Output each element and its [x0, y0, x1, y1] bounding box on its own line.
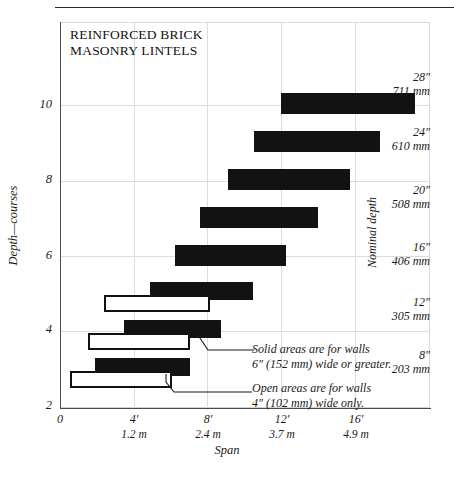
x-axis-line: [60, 408, 431, 409]
solid-note-leader-line: [198, 330, 258, 356]
y-tick-2: 2: [26, 398, 52, 413]
depth-label-20in-inches: 20": [350, 183, 430, 197]
x-tick-1-2m: 1.2 m: [110, 428, 158, 440]
open-note: Open areas are for walls 4" (102 mm) wid…: [252, 381, 371, 410]
x-tick-8ft: 8': [188, 412, 228, 427]
depth-label-12in-inches: 12": [350, 295, 430, 309]
bar-open-course-5: [104, 295, 210, 312]
top-rule: [55, 7, 454, 8]
chart-title: REINFORCED BRICK MASONRY LINTELS: [70, 27, 203, 58]
solid-note: Solid areas are for walls 6" (152 mm) wi…: [252, 342, 391, 371]
depth-label-28in: 28" 711 mm: [350, 70, 430, 98]
depth-label-24in: 24" 610 mm: [350, 125, 430, 153]
depth-label-12in-mm: 305 mm: [350, 309, 430, 323]
depth-label-16in: 16" 406 mm: [350, 240, 430, 268]
y-tick-6: 6: [26, 248, 52, 263]
chart-canvas: REINFORCED BRICK MASONRY LINTELS 10 8 6 …: [0, 0, 454, 477]
depth-label-28in-inches: 28": [350, 70, 430, 84]
depth-label-12in: 12" 305 mm: [350, 295, 430, 323]
x-tick-3-7m: 3.7 m: [258, 428, 306, 440]
x-tick-0ft: 0: [40, 412, 80, 427]
y-tick-10: 10: [26, 97, 52, 112]
depth-label-24in-mm: 610 mm: [350, 139, 430, 153]
x-tick-4ft: 4': [114, 412, 154, 427]
y-axis-line: [60, 22, 61, 409]
y-tick-4: 4: [26, 322, 52, 337]
gridline-vertical-4ft: [134, 22, 135, 408]
open-note-leader-line: [160, 372, 255, 398]
depth-label-24in-inches: 24": [350, 125, 430, 139]
depth-label-20in-mm: 508 mm: [350, 197, 430, 211]
depth-label-16in-inches: 16": [350, 240, 430, 254]
bar-solid-course-6: [175, 245, 286, 266]
x-tick-12ft: 12': [262, 412, 302, 427]
x-tick-4-9m: 4.9 m: [332, 428, 380, 440]
x-tick-2-4m: 2.4 m: [184, 428, 232, 440]
depth-label-28in-mm: 711 mm: [350, 84, 430, 98]
x-axis-title: Span: [0, 443, 454, 458]
depth-label-20in: 20" 508 mm: [350, 183, 430, 211]
bar-open-course-4: [88, 333, 190, 350]
x-tick-16ft: 16': [336, 412, 376, 427]
bar-solid-course-8: [228, 169, 350, 190]
y-tick-8: 8: [26, 172, 52, 187]
bar-solid-course-7: [200, 207, 318, 228]
depth-label-16in-mm: 406 mm: [350, 254, 430, 268]
y-axis-title: Depth—courses: [6, 166, 21, 286]
bar-open-course-3: [70, 371, 172, 388]
